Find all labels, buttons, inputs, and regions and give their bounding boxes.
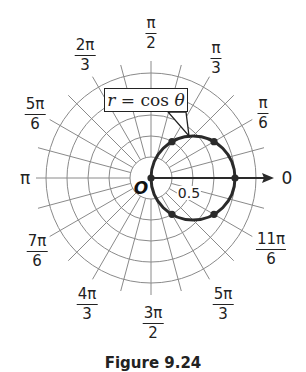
angle-label-pi-over-2: π 2 (145, 16, 156, 51)
angle-label-5pi-over-3: 5π 3 (213, 287, 234, 322)
angle-label-pi-over-3: π 3 (210, 41, 221, 76)
numerator: π (257, 96, 268, 114)
denominator: 3 (80, 56, 90, 73)
curve-point (231, 174, 238, 181)
grid-radial-line (171, 148, 264, 173)
equation-r: r (107, 90, 115, 110)
equation-theta: θ (174, 90, 184, 110)
angle-label-pi: π (20, 168, 30, 188)
numerator: 11π (256, 232, 286, 250)
numerator: 3π (143, 306, 164, 324)
grid-radial-line (38, 183, 131, 208)
radius-label: 0.5 (177, 186, 201, 200)
grid-radial-line (166, 193, 234, 261)
angle-label-2pi-over-3: 2π 3 (75, 38, 96, 73)
figure-caption: Figure 9.24 (105, 354, 202, 372)
denominator: 3 (211, 59, 221, 76)
grid-radial-line (162, 196, 210, 279)
grid-radial-line (68, 193, 136, 261)
angle-label-pi-over-6: π 6 (257, 96, 268, 131)
denominator: 6 (32, 252, 42, 269)
numerator: 5π (25, 97, 46, 115)
angle-label-0: 0 (282, 168, 293, 188)
callout-pointer (168, 112, 189, 136)
curve-point (210, 211, 217, 218)
curve-point (210, 138, 217, 145)
angle-label-4pi-over-3: 4π 3 (77, 287, 98, 322)
numerator: 4π (77, 287, 98, 305)
numerator: π (210, 41, 221, 59)
denominator: 3 (82, 305, 92, 322)
grid-radial-line (93, 196, 141, 279)
numerator: 5π (213, 287, 234, 305)
curve-point (168, 138, 175, 145)
denominator: 6 (266, 250, 276, 267)
numerator: 2π (75, 38, 96, 56)
denominator: 2 (146, 34, 156, 51)
curve-equation-callout: r = cos θ (104, 88, 188, 112)
grid-radial-line (121, 198, 146, 291)
grid-radial-line (50, 120, 133, 168)
numerator: 7π (27, 234, 48, 252)
denominator: 2 (148, 324, 158, 341)
angle-label-5pi-over-6: 5π 6 (25, 97, 46, 132)
angle-label-3pi-over-2: 3π 2 (143, 306, 164, 341)
angle-label-11pi-over-6: 11π 6 (256, 232, 286, 267)
denominator: 3 (218, 305, 228, 322)
grid-radial-line (50, 189, 133, 237)
curve-point (168, 211, 175, 218)
denominator: 6 (30, 115, 40, 132)
curve-point (147, 174, 154, 181)
origin-label: O (134, 178, 148, 198)
grid-radial-line (38, 148, 131, 173)
numerator: π (145, 16, 156, 34)
denominator: 6 (258, 114, 268, 131)
angle-label-7pi-over-6: 7π 6 (27, 234, 48, 269)
equation-cos: = cos (115, 90, 174, 110)
